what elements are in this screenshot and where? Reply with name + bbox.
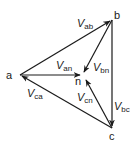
node-a-label: a	[6, 69, 13, 81]
node-c-label: c	[109, 130, 115, 142]
vector-bn-label: Vbn	[93, 61, 109, 75]
node-n-label: n	[75, 75, 81, 87]
node-b-label: b	[114, 9, 120, 21]
vector-ca-label: Vca	[27, 87, 43, 101]
phasor-diagram: a b c n Vab Vbn Van Vca Vcn Vbc	[0, 0, 135, 144]
vector-an-label: Van	[56, 59, 72, 73]
vector-cn-label: Vcn	[77, 91, 93, 105]
vector-ab-label: Vab	[77, 17, 94, 31]
vector-bc-label: Vbc	[114, 100, 130, 114]
